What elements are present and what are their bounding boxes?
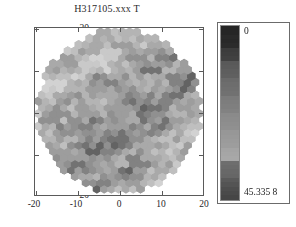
axis-tick	[35, 71, 39, 72]
axis-tick	[199, 155, 203, 156]
axis-tick	[78, 28, 79, 32]
colorbar[interactable]: 0 45.335 8	[217, 22, 290, 204]
axis-tick	[78, 191, 79, 195]
axis-tick	[35, 113, 39, 114]
x-tick-label: -20	[17, 199, 51, 209]
x-tick-label: 0	[102, 199, 136, 209]
axis-tick	[203, 28, 204, 32]
hexbin-plot	[35, 28, 203, 195]
plot-axes[interactable]	[34, 27, 204, 196]
axis-tick	[199, 113, 203, 114]
axis-tick	[162, 28, 163, 32]
x-tick-label: 20	[187, 199, 221, 209]
axis-tick	[199, 71, 203, 72]
axis-tick	[35, 195, 39, 196]
page-title: H317105.xxx T	[0, 2, 214, 15]
colorbar-band	[221, 195, 239, 199]
axis-tick	[120, 28, 121, 32]
figure-root: H317105.xxx T 20 10 0 -10 -20 -20 -10 0 …	[0, 0, 296, 227]
axis-tick	[162, 191, 163, 195]
axis-tick	[36, 28, 37, 32]
colorbar-gradient-strip	[220, 25, 240, 201]
axis-tick	[35, 155, 39, 156]
x-tick-label: 10	[144, 199, 178, 209]
axis-tick	[203, 191, 204, 195]
colorbar-min-label: 45.335 8	[244, 187, 277, 198]
axis-tick	[36, 191, 37, 195]
axis-tick	[120, 191, 121, 195]
axis-tick	[199, 195, 203, 196]
x-tick-label: -10	[59, 199, 93, 209]
colorbar-max-label: 0	[244, 26, 249, 37]
